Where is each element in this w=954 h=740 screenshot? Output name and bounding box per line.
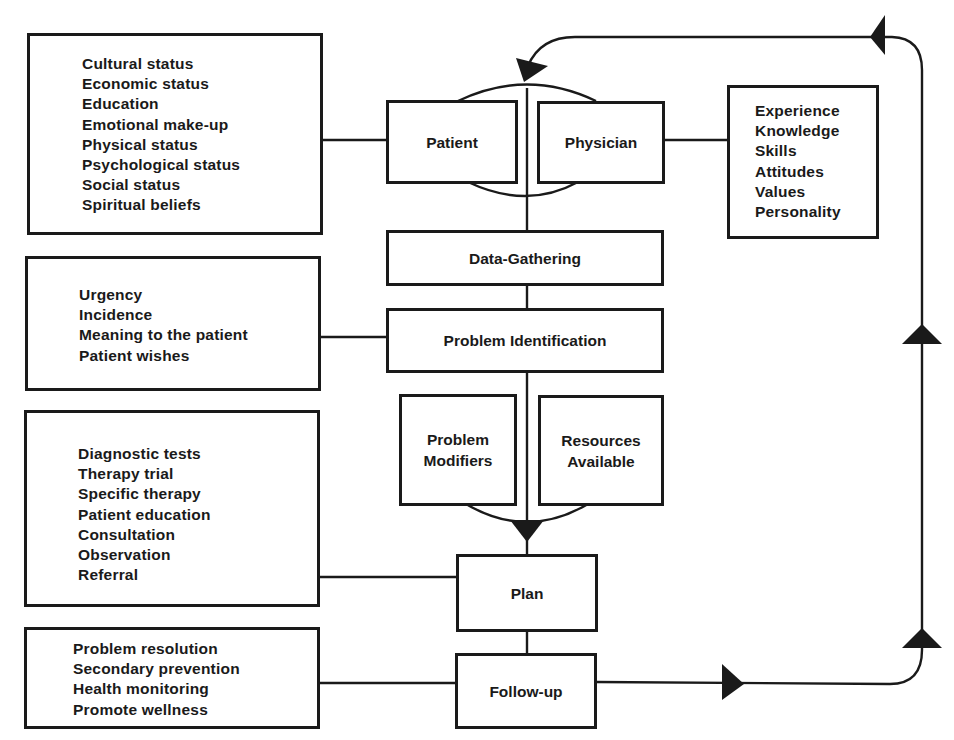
follow-up-goals-list: Problem resolution Secondary prevention … — [73, 639, 240, 720]
follow-up-goal: Problem resolution — [73, 639, 240, 659]
physician-factors-list: Experience Knowledge Skills Attitudes Va… — [755, 101, 841, 222]
plan-node: Plan — [456, 554, 598, 632]
patient-factor: Social status — [82, 175, 240, 195]
plan-label: Plan — [511, 583, 544, 604]
patient-node: Patient — [386, 100, 518, 184]
physician-factor: Knowledge — [755, 121, 841, 141]
patient-factor: Cultural status — [82, 54, 240, 74]
problem-identification-factor: Incidence — [79, 305, 248, 325]
physician-factor: Experience — [755, 101, 841, 121]
physician-factor: Personality — [755, 202, 841, 222]
follow-up-node: Follow-up — [455, 653, 597, 729]
patient-factors-list: Cultural status Economic status Educatio… — [82, 54, 240, 216]
plan-option: Consultation — [78, 525, 211, 545]
problem-identification-label: Problem Identification — [444, 330, 607, 351]
plan-options-list: Diagnostic tests Therapy trial Specific … — [78, 444, 211, 585]
resources-available-label-line: Available — [561, 451, 640, 472]
patient-factor: Emotional make-up — [82, 115, 240, 135]
plan-options-box: Diagnostic tests Therapy trial Specific … — [24, 410, 320, 607]
physician-factor: Values — [755, 182, 841, 202]
problem-identification-node: Problem Identification — [386, 308, 664, 373]
problem-modifiers-label-line: Problem — [424, 429, 493, 450]
plan-option: Specific therapy — [78, 484, 211, 504]
follow-up-goals-box: Problem resolution Secondary prevention … — [24, 627, 320, 729]
plan-option: Diagnostic tests — [78, 444, 211, 464]
problem-identification-factor: Urgency — [79, 285, 248, 305]
plan-option: Patient education — [78, 505, 211, 525]
patient-factor: Psychological status — [82, 155, 240, 175]
patient-factors-box: Cultural status Economic status Educatio… — [27, 33, 323, 235]
problem-identification-factor: Patient wishes — [79, 346, 248, 366]
patient-factor: Economic status — [82, 74, 240, 94]
plan-option: Observation — [78, 545, 211, 565]
follow-up-goal: Health monitoring — [73, 679, 240, 699]
resources-available-label-line: Resources — [561, 430, 640, 451]
follow-up-goal: Promote wellness — [73, 700, 240, 720]
patient-factor: Spiritual beliefs — [82, 195, 240, 215]
problem-identification-factor: Meaning to the patient — [79, 325, 248, 345]
physician-factor: Skills — [755, 141, 841, 161]
plan-option: Therapy trial — [78, 464, 211, 484]
data-gathering-node: Data-Gathering — [386, 230, 664, 286]
patient-factor: Education — [82, 94, 240, 114]
patient-label: Patient — [426, 132, 478, 153]
problem-modifiers-label-line: Modifiers — [424, 450, 493, 471]
resources-available-node: Resources Available — [538, 395, 664, 506]
physician-node: Physician — [537, 101, 665, 184]
plan-option: Referral — [78, 565, 211, 585]
problem-modifiers-node: Problem Modifiers — [399, 394, 517, 506]
physician-factor: Attitudes — [755, 162, 841, 182]
patient-factor: Physical status — [82, 135, 240, 155]
data-gathering-label: Data-Gathering — [469, 248, 581, 269]
follow-up-goal: Secondary prevention — [73, 659, 240, 679]
physician-label: Physician — [565, 132, 637, 153]
follow-up-label: Follow-up — [489, 681, 562, 702]
problem-identification-factors-box: Urgency Incidence Meaning to the patient… — [25, 256, 321, 391]
problem-identification-factors-list: Urgency Incidence Meaning to the patient… — [79, 285, 248, 366]
physician-factors-box: Experience Knowledge Skills Attitudes Va… — [727, 85, 879, 239]
